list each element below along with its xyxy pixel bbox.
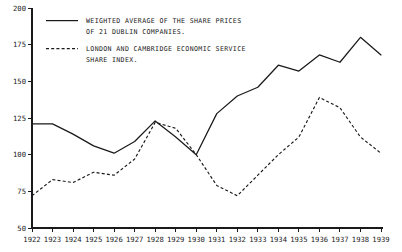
y-axis-tick-label: 75	[17, 187, 26, 196]
x-axis-tick-label: 1922	[23, 235, 40, 244]
y-axis-tick-label: 200	[13, 4, 26, 13]
legend-label: OF 21 DUBLIN COMPANIES.	[86, 28, 185, 36]
series-line-london-cambridge-index	[32, 97, 381, 195]
x-axis-tick-label: 1925	[85, 235, 102, 244]
x-axis-tick-label: 1927	[126, 235, 143, 244]
chart-legend: WEIGHTED AVERAGE OF THE SHARE PRICESOF 2…	[46, 17, 246, 64]
x-axis-tick-label: 1930	[188, 235, 205, 244]
y-axis-tick-label: 150	[13, 77, 26, 86]
x-axis-tick-label: 1937	[331, 235, 348, 244]
line-chart: 5075100125150175200 19221923192419251926…	[0, 0, 402, 252]
x-axis-tick-label: 1923	[44, 235, 61, 244]
legend-label: SHARE INDEX.	[86, 56, 138, 64]
x-axis-tick-label: 1936	[311, 235, 328, 244]
y-axis-tick-label: 175	[13, 40, 26, 49]
x-axis-tick-label: 1929	[167, 235, 184, 244]
series-line-dublin-share-prices	[32, 37, 381, 154]
x-axis-tick-label: 1928	[147, 235, 164, 244]
x-axis: 1922192319241925192619271928192919301931…	[23, 228, 389, 244]
x-axis-tick-label: 1933	[249, 235, 266, 244]
legend-label: WEIGHTED AVERAGE OF THE SHARE PRICES	[86, 17, 242, 25]
x-axis-tick-label: 1934	[270, 235, 287, 244]
y-axis-tick-label: 100	[13, 150, 26, 159]
chart-container: 5075100125150175200 19221923192419251926…	[0, 0, 402, 252]
x-axis-tick-label: 1935	[290, 235, 307, 244]
x-axis-tick-label: 1938	[352, 235, 369, 244]
x-axis-tick-label: 1926	[105, 235, 122, 244]
y-axis: 5075100125150175200	[13, 4, 32, 233]
x-axis-tick-label: 1932	[229, 235, 246, 244]
x-axis-tick-label: 1924	[64, 235, 81, 244]
x-axis-tick-label: 1931	[208, 235, 225, 244]
y-axis-tick-label: 50	[17, 224, 26, 233]
legend-label: LONDON AND CAMBRIDGE ECONOMIC SERVICE	[86, 45, 246, 53]
x-axis-tick-label: 1939	[372, 235, 389, 244]
y-axis-tick-label: 125	[13, 114, 26, 123]
